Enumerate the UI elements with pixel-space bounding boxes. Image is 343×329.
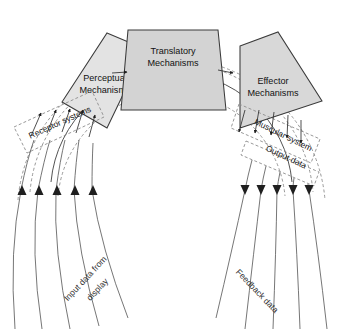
output-curve	[308, 184, 327, 329]
translatory-mechanisms-block[interactable]: Translatory Mechanisms	[121, 30, 226, 110]
input-curve	[13, 140, 34, 329]
information-processing-diagram: Body boundary Central Perceptual Mechani…	[0, 0, 343, 329]
output-flow-curves: Feedback data	[216, 160, 327, 329]
effector-block-line2: Mechanisms	[247, 88, 298, 98]
input-curve	[35, 140, 50, 329]
feedback-data-label: Feedback data	[234, 267, 281, 315]
input-flow-curves: Input data from display	[13, 140, 128, 329]
translatory-block-shape	[121, 30, 226, 110]
effector-mechanisms-block[interactable]: Effector Mechanisms	[240, 32, 322, 128]
output-curve	[216, 160, 252, 318]
output-arrowheads	[241, 185, 314, 195]
diagram-canvas: Body boundary Central Perceptual Mechani…	[0, 0, 343, 329]
perceptual-block-line1: Perceptual	[83, 73, 126, 83]
effector-block-line1: Effector	[257, 76, 288, 86]
translatory-block-line1: Translatory	[150, 46, 196, 56]
input-arrowheads	[18, 185, 98, 195]
translatory-block-line2: Mechanisms	[147, 58, 198, 68]
output-curve	[293, 178, 300, 329]
